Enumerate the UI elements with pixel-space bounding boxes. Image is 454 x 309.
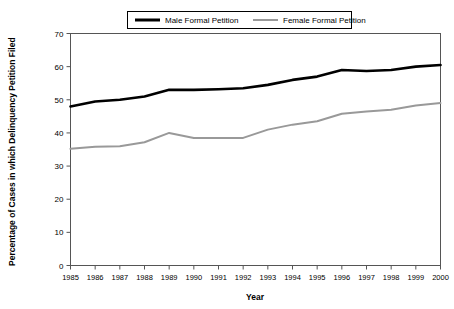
series-lines: [71, 65, 441, 149]
x-tick-label: 1998: [383, 273, 400, 282]
line-chart: Percentage of Cases in which Delinquency…: [0, 0, 454, 309]
y-axis-ticks: 010203040506070: [55, 30, 71, 271]
x-tick-label: 1988: [136, 273, 153, 282]
x-tick-label: 1995: [309, 273, 326, 282]
y-tick-label: 70: [55, 30, 64, 39]
x-tick-label: 1993: [259, 273, 276, 282]
y-tick-label: 50: [55, 96, 64, 105]
x-tick-label: 1985: [62, 273, 79, 282]
y-tick-label: 20: [55, 195, 64, 204]
y-tick-label: 40: [55, 129, 64, 138]
x-tick-label: 1994: [284, 273, 301, 282]
series-line-female-formal-petition: [71, 103, 441, 149]
series-line-male-formal-petition: [71, 65, 441, 106]
x-tick-label: 1999: [407, 273, 424, 282]
x-tick-label: 1992: [235, 273, 252, 282]
y-tick-label: 0: [59, 262, 64, 271]
x-tick-label: 2000: [432, 273, 449, 282]
y-tick-label: 60: [55, 63, 64, 72]
x-axis-ticks: 1985198619871988198919901991199219931994…: [62, 266, 449, 282]
x-tick-label: 1989: [161, 273, 178, 282]
chart-container: Percentage of Cases in which Delinquency…: [0, 0, 454, 309]
x-tick-label: 1990: [185, 273, 202, 282]
x-tick-label: 1997: [358, 273, 375, 282]
y-axis-title-group: Percentage of Cases in which Delinquency…: [7, 37, 17, 266]
x-tick-label: 1986: [87, 273, 104, 282]
x-tick-label: 1991: [210, 273, 227, 282]
legend-label-female: Female Formal Petition: [283, 16, 366, 25]
x-axis-title: Year: [246, 292, 265, 302]
y-tick-label: 30: [55, 162, 64, 171]
x-tick-label: 1987: [111, 273, 128, 282]
x-tick-label: 1996: [333, 273, 350, 282]
y-axis-title: Percentage of Cases in which Delinquency…: [7, 37, 17, 266]
legend-label-male: Male Formal Petition: [165, 16, 238, 25]
plot-frame: [71, 34, 441, 266]
legend: Male Formal Petition Female Formal Petit…: [128, 12, 366, 29]
y-tick-label: 10: [55, 228, 64, 237]
